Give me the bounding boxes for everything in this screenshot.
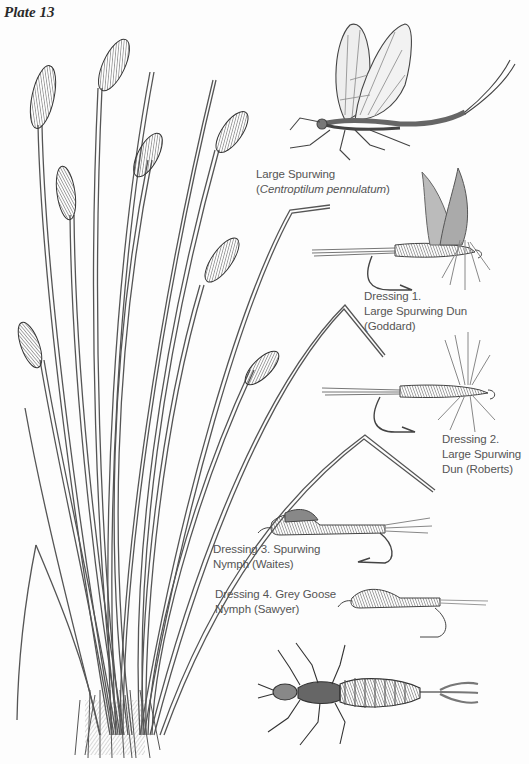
illustration-plate: Plate 13 [0, 0, 529, 764]
dressing-1-name: Large Spurwing Dun [364, 304, 467, 319]
dressing-3-author: Nymph (Waites) [213, 557, 320, 572]
plate-artwork [0, 0, 529, 764]
dressing-1-title: Dressing 1. [364, 289, 467, 304]
sedge-plant-illustration [13, 35, 435, 758]
dressing-4-author: Nymph (Sawyer) [215, 602, 336, 617]
dressing-1-label: Dressing 1. Large Spurwing Dun (Goddard) [364, 289, 467, 334]
adult-mayfly-illustration [290, 24, 515, 160]
dressing-4-fly-illustration [338, 589, 488, 637]
species-latin-name: (Centroptilum pennulatum) [256, 182, 390, 197]
sedge-base [75, 690, 160, 758]
dressing-2-author: Dun (Roberts) [442, 462, 521, 477]
dressing-4-title: Dressing 4. Grey Goose [215, 587, 336, 602]
dressing-2-name: Large Spurwing [442, 447, 521, 462]
species-common-name: Large Spurwing [256, 167, 390, 182]
dressing-1-author: (Goddard) [364, 319, 467, 334]
dressing-3-title: Dressing 3. Spurwing [213, 542, 320, 557]
dressing-2-fly-illustration [322, 332, 495, 432]
species-label: Large Spurwing (Centroptilum pennulatum) [256, 167, 390, 197]
mayfly-nymph-illustration [258, 643, 478, 745]
dressing-2-label: Dressing 2. Large Spurwing Dun (Roberts) [442, 432, 521, 477]
dressing-3-label: Dressing 3. Spurwing Nymph (Waites) [213, 542, 320, 572]
dressing-4-label: Dressing 4. Grey Goose Nymph (Sawyer) [215, 587, 336, 617]
dressing-2-title: Dressing 2. [442, 432, 521, 447]
